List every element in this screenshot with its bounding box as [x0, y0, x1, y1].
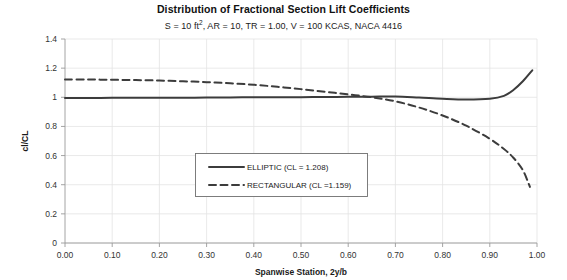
x-tick-label-4: 0.40	[246, 250, 263, 260]
series-path-elliptic	[65, 70, 532, 99]
y-tick-label-3: 0.6	[45, 151, 57, 161]
x-tick-label-10: 1.00	[529, 250, 546, 260]
y-tick-label-5: 1	[52, 92, 57, 102]
x-axis-title: Spanwise Station, 2y/b	[255, 267, 347, 277]
x-tick-label-5: 0.50	[293, 250, 310, 260]
tick-marks	[61, 39, 537, 247]
x-tick-label-9: 0.90	[482, 250, 499, 260]
x-tick-label-6: 0.60	[340, 250, 357, 260]
x-tick-label-3: 0.30	[198, 250, 215, 260]
y-axis-title: cl/CL	[20, 131, 30, 152]
y-tick-labels: 00.20.40.60.811.21.4	[45, 34, 57, 248]
chart-legend: ELLIPTIC (CL = 1.208) RECTANGULAR (CL =1…	[196, 154, 368, 197]
legend-label-elliptic: ELLIPTIC (CL = 1.208)	[247, 163, 329, 172]
x-gridlines	[112, 39, 537, 243]
y-tick-label-0: 0	[52, 238, 57, 248]
x-tick-label-2: 0.20	[151, 250, 168, 260]
x-tick-label-0: 0.00	[57, 250, 74, 260]
x-tick-label-1: 0.10	[104, 250, 121, 260]
legend-label-rectangular: RECTANGULAR (CL =1.159)	[247, 181, 352, 190]
chart-container: Distribution of Fractional Section Lift …	[0, 0, 567, 280]
plot-area: 00.20.40.60.811.21.4 0.000.100.200.300.4…	[0, 0, 567, 280]
y-tick-label-1: 0.2	[45, 209, 57, 219]
y-tick-label-2: 0.4	[45, 180, 57, 190]
legend-box	[196, 154, 368, 197]
y-tick-label-6: 1.2	[45, 63, 57, 73]
y-tick-label-4: 0.8	[45, 121, 57, 131]
y-tick-label-7: 1.4	[45, 34, 57, 44]
x-tick-labels: 0.000.100.200.300.400.500.600.700.800.90…	[57, 250, 546, 260]
x-tick-label-8: 0.80	[434, 250, 451, 260]
x-tick-label-7: 0.70	[387, 250, 404, 260]
